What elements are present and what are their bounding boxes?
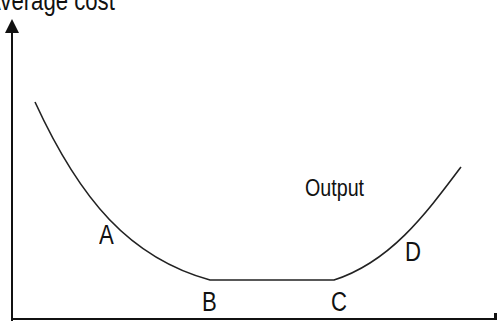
point-d-label: D [405, 237, 421, 268]
x-axis-arrow-icon [494, 313, 497, 320]
average-cost-curve [35, 102, 461, 280]
x-axis [12, 313, 497, 320]
y-axis-arrow-icon [5, 19, 19, 33]
point-b-label: B [202, 287, 217, 318]
point-c-label: C [331, 287, 347, 318]
y-axis [5, 19, 19, 321]
x-axis-label: Output [305, 174, 364, 202]
point-a-label: A [99, 220, 114, 251]
y-axis-label: Average cost [0, 0, 115, 17]
average-cost-diagram [0, 0, 498, 321]
